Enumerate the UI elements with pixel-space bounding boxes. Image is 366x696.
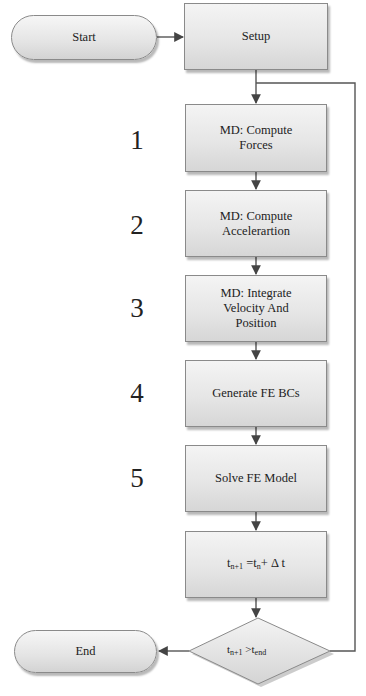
- time-update-formula: tn+1 =tn+ Δ t: [227, 556, 285, 574]
- step-number-4: 4: [117, 378, 157, 408]
- start-label: Start: [72, 30, 96, 45]
- compute-forces-label: MD: Compute Forces: [220, 123, 293, 153]
- setup-label: Setup: [242, 29, 270, 44]
- end-terminal: End: [14, 630, 157, 673]
- integrate-velocity-position-label: MD: Integrate Velocity And Position: [220, 286, 291, 331]
- setup-box: Setup: [184, 3, 328, 70]
- step-number-2: 2: [117, 210, 157, 240]
- generate-fe-bcs-label: Generate FE BCs: [212, 386, 299, 401]
- compute-forces-box: MD: Compute Forces: [185, 104, 327, 172]
- step-number-1: 1: [117, 125, 157, 155]
- flowchart: Start Setup 1 MD: Compute Forces 2 MD: C…: [0, 0, 366, 696]
- end-label: End: [75, 644, 95, 659]
- decision-condition: tn+1 >tend: [227, 643, 266, 657]
- step-number-5: 5: [117, 463, 157, 493]
- time-update-box: tn+1 =tn+ Δ t: [185, 531, 327, 598]
- start-terminal: Start: [11, 15, 157, 60]
- integrate-velocity-position-box: MD: Integrate Velocity And Position: [185, 275, 327, 342]
- step-number-3: 3: [117, 293, 157, 323]
- solve-fe-model-box: Solve FE Model: [185, 445, 327, 512]
- generate-fe-bcs-box: Generate FE BCs: [185, 360, 327, 427]
- compute-acceleration-label: MD: Compute Accelerartion: [220, 209, 293, 239]
- solve-fe-model-label: Solve FE Model: [215, 471, 297, 486]
- compute-acceleration-box: MD: Compute Accelerartion: [185, 190, 327, 257]
